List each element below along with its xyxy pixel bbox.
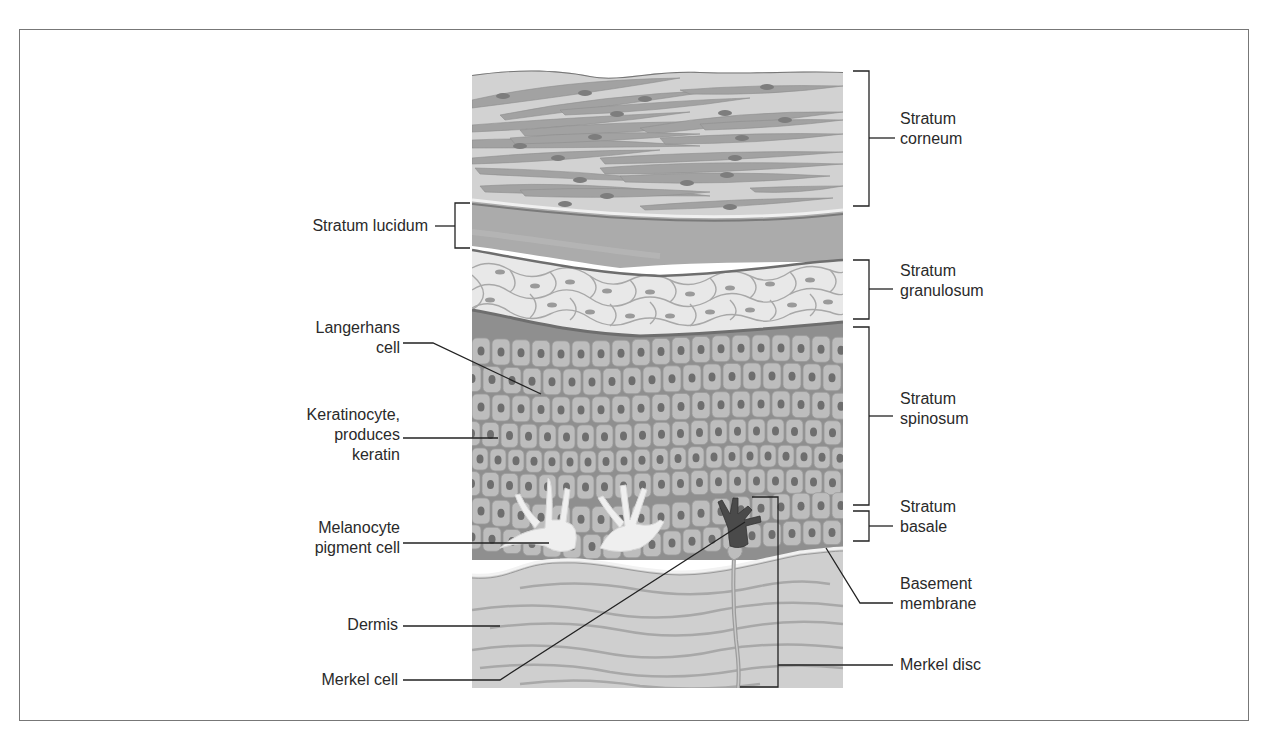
- epidermis-illustration: [0, 0, 1267, 736]
- label-line: cell: [250, 338, 400, 358]
- label-line: Melanocyte: [250, 518, 400, 538]
- label-line: granulosum: [900, 281, 984, 301]
- label-line: Basement: [900, 574, 976, 594]
- label-line: Merkel disc: [900, 655, 981, 675]
- label-stratum-lucidum: Stratum lucidum: [250, 216, 428, 236]
- label-line: Stratum: [900, 261, 984, 281]
- label-line: Stratum: [900, 497, 956, 517]
- label-line: produces: [250, 425, 400, 445]
- label-line: Stratum: [900, 109, 962, 129]
- label-line: Stratum lucidum: [250, 216, 428, 236]
- label-keratinocyte: Keratinocyte, produces keratin: [250, 405, 400, 465]
- label-line: corneum: [900, 129, 962, 149]
- label-melanocyte: Melanocyte pigment cell: [250, 518, 400, 558]
- label-merkel-disc: Merkel disc: [900, 655, 981, 675]
- dermis-layer: [472, 548, 843, 690]
- label-basement-membrane: Basement membrane: [900, 574, 976, 614]
- label-dermis: Dermis: [250, 615, 398, 635]
- label-stratum-corneum: Stratum corneum: [900, 109, 962, 149]
- label-line: membrane: [900, 594, 976, 614]
- label-line: spinosum: [900, 409, 968, 429]
- label-line: pigment cell: [250, 538, 400, 558]
- label-stratum-basale: Stratum basale: [900, 497, 956, 537]
- label-line: Langerhans: [250, 318, 400, 338]
- label-stratum-spinosum: Stratum spinosum: [900, 389, 968, 429]
- label-line: Stratum: [900, 389, 968, 409]
- label-stratum-granulosum: Stratum granulosum: [900, 261, 984, 301]
- label-line: Dermis: [250, 615, 398, 635]
- label-langerhans-cell: Langerhans cell: [250, 318, 400, 358]
- label-line: Keratinocyte,: [250, 405, 400, 425]
- label-merkel-cell: Merkel cell: [250, 670, 398, 690]
- label-line: keratin: [250, 445, 400, 465]
- label-line: Merkel cell: [250, 670, 398, 690]
- stratum-corneum-layer: [472, 60, 843, 220]
- label-line: basale: [900, 517, 956, 537]
